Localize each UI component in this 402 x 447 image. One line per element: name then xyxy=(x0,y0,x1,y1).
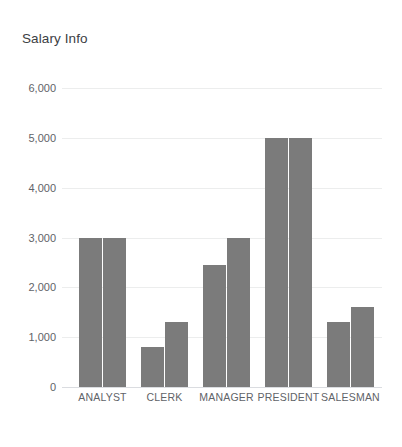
bar[interactable] xyxy=(289,138,312,387)
bar[interactable] xyxy=(141,347,164,387)
bar[interactable] xyxy=(165,322,188,387)
y-tick-label-6000: 6,000 xyxy=(4,82,56,94)
bar-group xyxy=(265,88,312,387)
salary-info-chart-card: Salary Info 01,0002,0003,0004,0005,0006,… xyxy=(0,0,402,447)
y-tick-label-4000: 4,000 xyxy=(4,182,56,194)
gridline-0 xyxy=(62,387,382,388)
bar-group xyxy=(141,88,188,387)
bar[interactable] xyxy=(265,138,288,387)
y-tick-label-1000: 1,000 xyxy=(4,331,56,343)
bar-group xyxy=(327,88,374,387)
bar[interactable] xyxy=(103,238,126,388)
y-tick-label-2000: 2,000 xyxy=(4,281,56,293)
bar-group xyxy=(203,88,250,387)
plot-area: 01,0002,0003,0004,0005,0006,000 ANALYSTC… xyxy=(62,88,382,387)
bar-group xyxy=(79,88,126,387)
chart-title: Salary Info xyxy=(22,31,88,46)
y-tick-label-3000: 3,000 xyxy=(4,232,56,244)
bar[interactable] xyxy=(351,307,374,387)
y-tick-label-5000: 5,000 xyxy=(4,132,56,144)
bar[interactable] xyxy=(79,238,102,388)
bar[interactable] xyxy=(203,265,226,387)
bar[interactable] xyxy=(227,238,250,388)
x-tick-label-salesman: SALESMAN xyxy=(296,391,402,403)
bar[interactable] xyxy=(327,322,350,387)
